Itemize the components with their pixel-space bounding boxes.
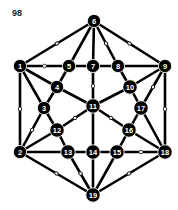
node-label: 12 xyxy=(53,126,61,135)
node-17: 17 xyxy=(134,101,148,115)
edge-marker-icon xyxy=(18,106,22,111)
node-label: 15 xyxy=(113,148,121,157)
graph-diagram: 12345678910111213141516171819 xyxy=(0,0,178,210)
edge-marker-icon xyxy=(163,106,167,111)
node-14: 14 xyxy=(86,145,100,159)
node-label: 1 xyxy=(18,62,22,71)
node-label: 10 xyxy=(126,83,134,92)
node-5: 5 xyxy=(62,59,75,72)
node-7: 7 xyxy=(86,59,99,72)
node-19: 19 xyxy=(86,188,100,202)
node-label: 2 xyxy=(18,148,22,157)
node-label: 13 xyxy=(64,148,72,157)
node-4: 4 xyxy=(50,80,63,93)
node-18: 18 xyxy=(158,145,172,159)
node-2: 2 xyxy=(13,145,26,158)
node-label: 8 xyxy=(116,62,120,71)
node-label: 11 xyxy=(89,102,97,111)
node-3: 3 xyxy=(37,101,50,114)
node-8: 8 xyxy=(111,59,124,72)
node-label: 6 xyxy=(92,17,96,26)
node-1: 1 xyxy=(13,59,26,72)
node-label: 16 xyxy=(125,126,133,135)
edge-marker-icon xyxy=(138,150,143,154)
node-6: 6 xyxy=(87,14,100,27)
node-10: 10 xyxy=(123,80,137,94)
node-16: 16 xyxy=(122,123,136,137)
node-label: 3 xyxy=(42,104,46,113)
edge-marker-icon xyxy=(42,64,47,68)
node-label: 9 xyxy=(163,62,167,71)
node-label: 5 xyxy=(67,62,71,71)
node-label: 18 xyxy=(161,148,169,157)
node-9: 9 xyxy=(158,59,171,72)
node-label: 17 xyxy=(137,104,145,113)
node-11: 11 xyxy=(86,99,100,113)
node-15: 15 xyxy=(110,145,124,159)
node-label: 7 xyxy=(91,62,95,71)
node-13: 13 xyxy=(61,145,75,159)
node-label: 19 xyxy=(89,191,97,200)
node-12: 12 xyxy=(50,123,64,137)
node-label: 14 xyxy=(89,148,98,157)
edge-marker-icon xyxy=(91,83,95,88)
